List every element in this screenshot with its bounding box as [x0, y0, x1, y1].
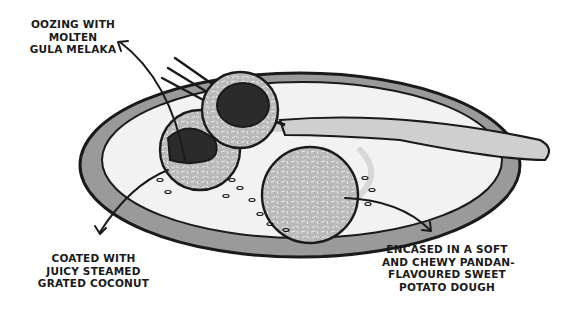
cut-ball-right — [202, 72, 278, 148]
illustration-canvas: OOZING WITH MOLTEN GULA MELAKA COATED WI… — [0, 0, 580, 316]
whole-ball — [262, 147, 358, 243]
annotation-coating: COATED WITH JUICY STEAMED GRATED COCONUT — [36, 252, 151, 290]
annotation-line: GRATED COCONUT — [36, 277, 151, 290]
annotation-line: FLAVOURED SWEET — [382, 268, 512, 281]
annotation-line: AND CHEWY PANDAN- — [382, 256, 512, 269]
annotation-line: GULA MELAKA — [28, 43, 118, 56]
annotation-filling: OOZING WITH MOLTEN GULA MELAKA — [28, 18, 118, 56]
annotation-line: MOLTEN — [28, 31, 118, 44]
annotation-line: ENCASED IN A SOFT — [382, 243, 512, 256]
annotation-line: COATED WITH — [36, 252, 151, 265]
annotation-line: POTATO DOUGH — [382, 281, 512, 294]
annotation-line: OOZING WITH — [28, 18, 118, 31]
annotation-line: JUICY STEAMED — [36, 265, 151, 278]
annotation-dough: ENCASED IN A SOFT AND CHEWY PANDAN- FLAV… — [382, 243, 512, 293]
